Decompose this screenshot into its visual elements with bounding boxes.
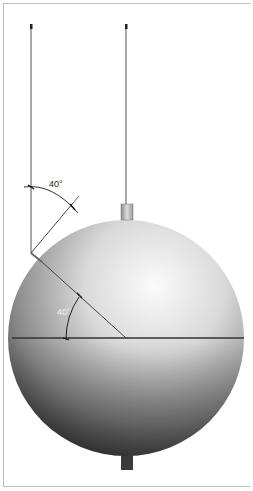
- tilted-rod-extension: [73, 196, 79, 203]
- diagram-canvas: 40° 40°: [0, 0, 253, 491]
- right-rod-tip: [125, 24, 128, 29]
- upper-angle-label: 40°: [49, 179, 63, 189]
- top-cap: [121, 204, 133, 220]
- sphere: [0, 220, 253, 468]
- lower-angle-label: 40°: [57, 307, 71, 317]
- left-rod-tip: [30, 24, 33, 29]
- upper-angle-arc: [24, 187, 78, 213]
